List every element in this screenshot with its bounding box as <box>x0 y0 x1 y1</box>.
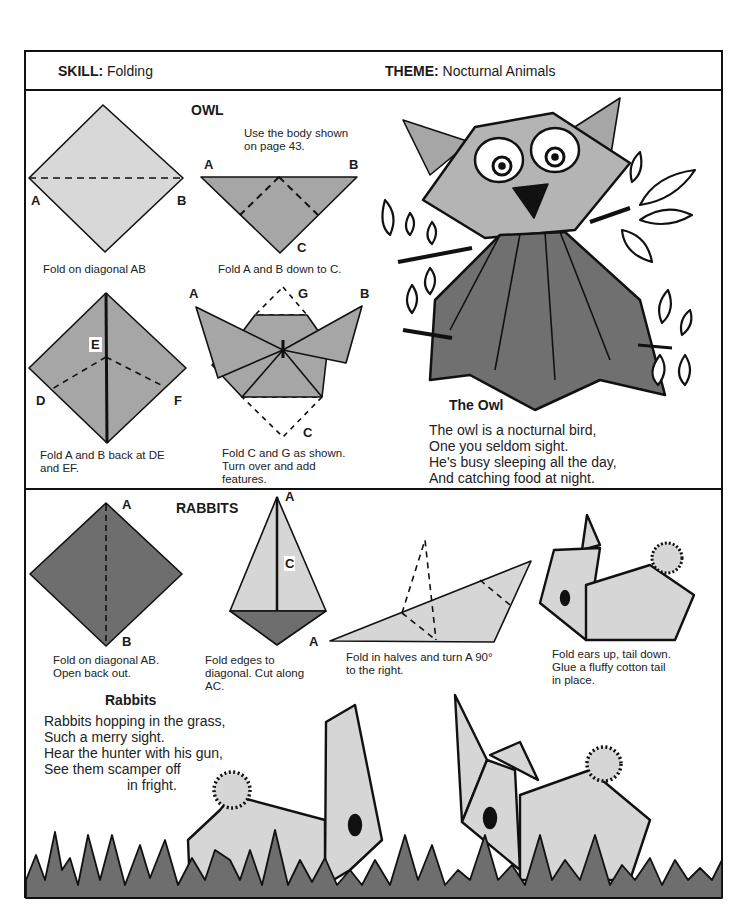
owl-step2-label-c: C <box>297 240 306 255</box>
rabbit-step3-diagram <box>330 540 531 642</box>
rabbit-step2-label-a: A <box>285 489 294 504</box>
rabbit-step2-diagram <box>230 497 326 645</box>
rabbits-section-title: RABBITS <box>176 500 238 516</box>
owl-step1-label-a: A <box>31 193 40 208</box>
owl-step1-caption: Fold on diagonal AB <box>43 263 146 276</box>
poem-line: He's busy sleeping all the day, <box>429 454 617 470</box>
owl-note-line: on page 43. <box>244 140 348 153</box>
owl-poem: The owl is a nocturnal bird, One you sel… <box>429 422 617 486</box>
caption-line: diagonal. Cut along <box>205 667 304 680</box>
poem-line: See them scamper off <box>44 761 225 777</box>
caption-line: in place. <box>552 674 671 687</box>
rabbits-poem-title: Rabbits <box>105 692 156 708</box>
caption-line: Fold ears up, tail down. <box>552 648 671 661</box>
poem-line: Rabbits hopping in the grass, <box>44 713 225 729</box>
rabbit-step1-diagram <box>30 503 182 646</box>
rabbit-step4-diagram <box>540 515 694 640</box>
owl-step3-label-f: F <box>174 393 182 408</box>
caption-line: Open back out. <box>53 667 159 680</box>
owl-note-line: Use the body shown <box>244 127 348 140</box>
owl-section-title: OWL <box>191 102 224 118</box>
owl-step4-label-g: G <box>298 286 308 301</box>
rabbit-step3-caption: Fold in halves and turn A 90° to the rig… <box>346 651 493 677</box>
owl-step4-diagram <box>196 287 362 437</box>
poem-line: Hear the hunter with his gun, <box>44 745 225 761</box>
rabbit-step1-caption: Fold on diagonal AB. Open back out. <box>53 654 159 680</box>
owl-poem-title: The Owl <box>449 397 503 413</box>
rabbit-step2-label-c: C <box>284 556 295 571</box>
poem-line: in fright. <box>44 777 225 793</box>
rabbit-step1-label-a: A <box>122 497 131 512</box>
owl-step4-caption: Fold C and G as shown. Turn over and add… <box>222 447 345 486</box>
caption-line: to the right. <box>346 664 493 677</box>
rabbit-step3-label-a: A <box>309 634 318 649</box>
owl-step1-diagram <box>29 105 183 252</box>
caption-line: Fold C and G as shown. <box>222 447 345 460</box>
owl-step2-label-a: A <box>204 157 213 172</box>
owl-step1-label-b: B <box>177 193 186 208</box>
owl-step4-label-c: C <box>303 425 312 440</box>
owl-step2-caption: Fold A and B down to C. <box>218 263 341 276</box>
poem-line: The owl is a nocturnal bird, <box>429 422 617 438</box>
owl-step3-caption: Fold A and B back at DE and EF. <box>40 449 165 475</box>
caption-line: and EF. <box>40 462 165 475</box>
rabbit-step2-caption: Fold edges to diagonal. Cut along AC. <box>205 654 304 693</box>
poem-line: And catching food at night. <box>429 470 617 486</box>
owl-step4-label-a: A <box>189 286 198 301</box>
rabbit-step1-label-b: B <box>122 634 131 649</box>
caption-line: Fold edges to <box>205 654 304 667</box>
owl-step2-label-b: B <box>349 157 358 172</box>
rabbit-step4-caption: Fold ears up, tail down. Glue a fluffy c… <box>552 648 671 687</box>
caption-line: Fold in halves and turn A 90° <box>346 651 493 664</box>
owl-step3-diagram <box>29 293 186 443</box>
rabbits-poem: Rabbits hopping in the grass, Such a mer… <box>44 713 225 793</box>
owl-step3-label-d: D <box>36 393 45 408</box>
owl-note: Use the body shown on page 43. <box>244 127 348 153</box>
owl-step4-label-b: B <box>360 286 369 301</box>
caption-line: AC. <box>205 680 304 693</box>
caption-line: features. <box>222 473 345 486</box>
poem-line: One you seldom sight. <box>429 438 617 454</box>
caption-line: Turn over and add <box>222 460 345 473</box>
owl-step2-diagram <box>201 177 357 253</box>
caption-line: Glue a fluffy cotton tail <box>552 661 671 674</box>
poem-line: Such a merry sight. <box>44 729 225 745</box>
caption-line: Fold on diagonal AB. <box>53 654 159 667</box>
caption-line: Fold A and B back at DE <box>40 449 165 462</box>
owl-step3-label-e: E <box>89 337 102 352</box>
